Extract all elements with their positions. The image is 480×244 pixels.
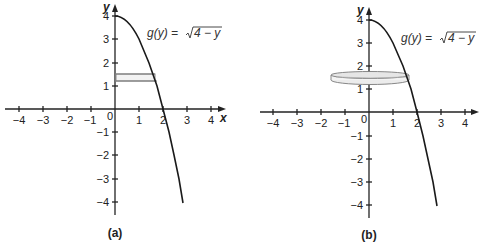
x-tick-labels: −4 −3 −2 −1 0 1 2 3 4 xyxy=(13,110,214,126)
svg-text:4 − y: 4 − y xyxy=(448,31,475,45)
svg-text:−4: −4 xyxy=(13,114,26,126)
caption-b: (b) xyxy=(361,228,376,242)
svg-text:3: 3 xyxy=(184,114,190,126)
svg-text:0: 0 xyxy=(361,113,367,125)
svg-text:4: 4 xyxy=(208,114,214,126)
revolved-disk xyxy=(331,72,409,85)
x-tick-labels: −4 −3 −2 −1 0 1 2 3 4 xyxy=(267,113,468,129)
svg-text:−3: −3 xyxy=(291,117,304,129)
y-axis-arrow-icon xyxy=(366,7,372,15)
svg-text:−1: −1 xyxy=(96,126,109,138)
function-label: g(y) = 4 − y xyxy=(401,31,476,45)
panel-b: −4 −3 −2 −1 0 1 2 3 4 4 3 2 1 −1 −2 −3 −… xyxy=(240,0,480,244)
svg-text:−2: −2 xyxy=(315,117,328,129)
svg-text:1: 1 xyxy=(136,114,142,126)
svg-text:0: 0 xyxy=(107,110,113,122)
svg-text:−4: −4 xyxy=(350,199,363,211)
svg-text:g(y) =: g(y) = xyxy=(147,26,178,40)
chart-b: −4 −3 −2 −1 0 1 2 3 4 4 3 2 1 −1 −2 −3 −… xyxy=(240,0,480,244)
caption-a: (a) xyxy=(108,226,123,240)
x-axis-arrow-icon xyxy=(471,109,479,115)
svg-text:−2: −2 xyxy=(96,149,109,161)
svg-text:−1: −1 xyxy=(84,114,97,126)
svg-text:−1: −1 xyxy=(338,117,351,129)
svg-text:−3: −3 xyxy=(37,114,50,126)
svg-text:−2: −2 xyxy=(61,114,74,126)
svg-text:−1: −1 xyxy=(350,130,363,142)
svg-text:3: 3 xyxy=(357,37,363,49)
x-axis-label: x xyxy=(219,111,228,125)
svg-text:g(y) =: g(y) = xyxy=(401,31,432,45)
svg-text:−3: −3 xyxy=(350,176,363,188)
slice-rectangle xyxy=(116,74,157,81)
svg-text:3: 3 xyxy=(103,33,109,45)
svg-text:1: 1 xyxy=(390,117,396,129)
chart-a: −4 −3 −2 −1 0 1 2 3 4 4 3 2 1 −1 −2 −3 −… xyxy=(0,0,240,244)
svg-text:−3: −3 xyxy=(96,173,109,185)
svg-text:2: 2 xyxy=(357,60,363,72)
curve-g-of-y xyxy=(369,20,437,206)
y-axis-label: y xyxy=(102,0,111,14)
svg-text:3: 3 xyxy=(438,117,444,129)
svg-text:2: 2 xyxy=(103,57,109,69)
panel-a: −4 −3 −2 −1 0 1 2 3 4 4 3 2 1 −1 −2 −3 −… xyxy=(0,0,240,244)
svg-text:4: 4 xyxy=(462,117,468,129)
function-label: g(y) = 4 − y xyxy=(147,26,222,40)
y-axis-label: y xyxy=(356,3,365,17)
svg-text:−4: −4 xyxy=(96,196,109,208)
svg-text:4 − y: 4 − y xyxy=(194,26,221,40)
svg-text:−2: −2 xyxy=(350,153,363,165)
svg-text:−4: −4 xyxy=(267,117,280,129)
y-axis-arrow-icon xyxy=(112,4,118,12)
svg-text:1: 1 xyxy=(103,80,109,92)
